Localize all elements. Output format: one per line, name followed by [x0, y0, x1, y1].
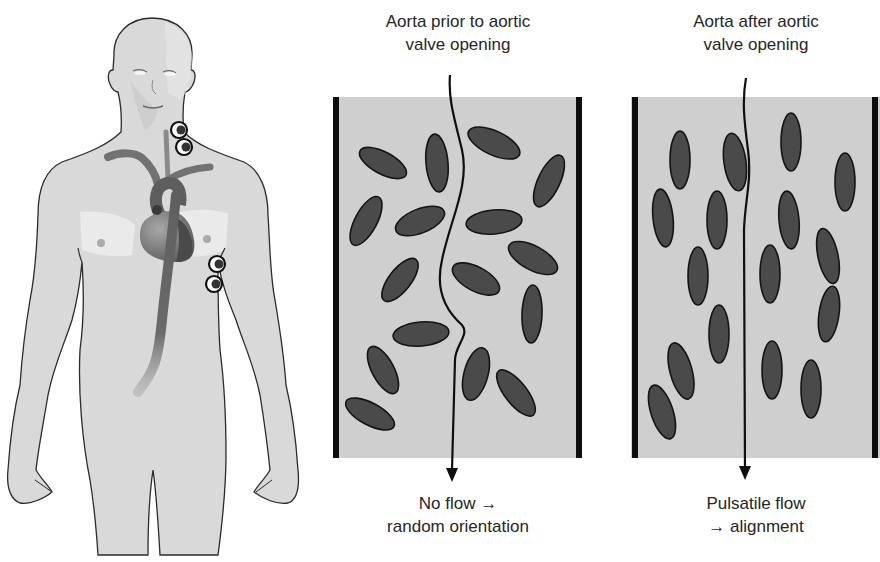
right-nipple: [203, 235, 211, 243]
human-figure: [8, 18, 299, 555]
red-blood-cell: [760, 245, 780, 303]
aorta-wall-left-before: [333, 97, 339, 458]
chest-electrode-1: [209, 256, 225, 272]
aorta-wall-right-after: [872, 97, 878, 458]
title-before-line1: Aorta prior to aortic: [333, 10, 583, 33]
red-blood-cell: [762, 341, 782, 399]
aorta-wall-left-after: [632, 97, 638, 458]
caption-after-line2: → alignment: [631, 515, 880, 538]
neck-electrode-1: [171, 122, 187, 138]
panel-after-valve-opening: [631, 78, 880, 480]
left-eye-white: [134, 71, 146, 75]
red-blood-cell: [707, 191, 727, 249]
flow-arrowhead-after: [739, 466, 751, 480]
panel-before-valve-opening: [333, 75, 582, 482]
left-nipple: [97, 239, 105, 247]
body-silhouette: [8, 18, 299, 555]
neck-electrode-2: [176, 139, 192, 155]
caption-before-line1: No flow →: [333, 492, 583, 515]
title-after-line1: Aorta after aortic: [631, 10, 880, 33]
red-blood-cell: [801, 360, 821, 418]
panel-title-after: Aorta after aortic valve opening: [631, 10, 880, 56]
aorta-wall-right-before: [576, 97, 582, 458]
panel-caption-before: No flow → random orientation: [333, 492, 583, 538]
right-eye-white: [164, 72, 176, 76]
red-blood-cell: [709, 305, 729, 363]
title-before-line2: valve opening: [333, 33, 583, 56]
red-blood-cell: [835, 153, 855, 211]
red-blood-cell: [781, 113, 801, 171]
red-blood-cell: [688, 247, 708, 305]
aorta-flow-diagram: [0, 0, 880, 562]
title-after-line2: valve opening: [631, 33, 880, 56]
caption-before-line2: random orientation: [333, 515, 583, 538]
panel-caption-after: Pulsatile flow → alignment: [631, 492, 880, 538]
carotid-artery: [166, 132, 168, 180]
panel-title-before: Aorta prior to aortic valve opening: [333, 10, 583, 56]
chest-electrode-2: [206, 276, 222, 292]
aortic-valve: [152, 205, 162, 215]
caption-after-line1: Pulsatile flow: [631, 492, 880, 515]
red-blood-cell: [670, 131, 690, 189]
flow-arrowhead-before: [446, 468, 458, 482]
